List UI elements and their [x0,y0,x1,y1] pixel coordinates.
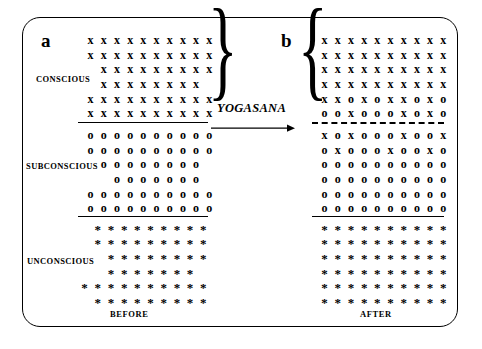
glyph-star: * [424,267,437,280]
glyph-o: o [124,173,137,185]
glyph-x: x [331,49,344,61]
glyph-o: o [190,202,203,214]
glyph-star: * [371,267,384,280]
glyph-x: x [318,78,331,90]
glyph-empty: · [203,158,216,170]
glyph-star: * [131,267,144,280]
glyph-x: x [424,144,437,156]
glyph-row: oooooooooo [318,201,450,216]
glyph-x: x [176,34,189,46]
glyph-x: x [137,78,150,90]
glyph-o: o [318,173,331,185]
glyph-o: o [150,158,163,170]
glyph-star: * [131,252,144,265]
panel-a-letter: a [41,31,51,50]
glyph-x: x [318,34,331,46]
glyph-empty: · [91,267,104,279]
glyph-x: x [384,34,397,46]
glyph-star: * [197,252,210,265]
glyph-o: o [397,173,410,185]
glyph-x: x [384,144,397,156]
glyph-star: * [144,281,157,294]
glyph-star: * [197,223,210,236]
glyph-star: * [397,281,410,294]
glyph-star: * [358,296,371,309]
glyph-x: x [163,63,176,75]
glyph-star: * [410,223,423,236]
glyph-star: * [157,252,170,265]
glyph-x: x [110,49,123,61]
glyph-x: x [344,107,357,119]
glyph-star: * [344,252,357,265]
glyph-x: x [97,63,110,75]
glyph-o: o [384,202,397,214]
glyph-row: ********** [318,222,450,237]
glyph-star: * [384,237,397,250]
glyph-star: * [118,252,131,265]
glyph-o: o [190,188,203,200]
glyph-star: * [384,252,397,265]
glyph-x: x [344,34,357,46]
glyph-star: * [397,252,410,265]
glyph-row: xxxxxxxxxx [318,77,450,92]
panel-a-right-brace: } [208,0,238,104]
glyph-o: o [410,158,423,170]
panel-a-conscious-grid: xxxxxxxxxxxxxxxxxxxx·xxxxxxxxx·xxxxxxxx·… [84,33,216,121]
glyph-star: * [104,281,117,294]
glyph-o: o [384,129,397,141]
glyph-o: o [150,173,163,185]
panel-b-divider-subconscious-unconscious [312,216,444,217]
glyph-o: o [344,173,357,185]
glyph-x: x [110,107,123,119]
glyph-star: * [104,237,117,250]
glyph-row: oxoooxooxo [318,143,450,158]
glyph-star: * [318,267,331,280]
glyph-x: x [110,34,123,46]
glyph-x: x [124,63,137,75]
glyph-star: * [371,223,384,236]
glyph-star: * [104,252,117,265]
caption-before: BEFORE [110,309,149,319]
glyph-x: x [410,49,423,61]
glyph-x: x [437,78,450,90]
glyph-x: x [190,78,203,90]
glyph-o: o [97,188,110,200]
glyph-star: * [318,237,331,250]
glyph-empty: · [84,158,97,170]
glyph-x: x [437,49,450,61]
glyph-o: o [163,188,176,200]
glyph-star: * [384,267,397,280]
glyph-row: oooooooooo [318,186,450,201]
glyph-star: * [358,281,371,294]
glyph-star: * [424,252,437,265]
glyph-o: o [176,129,189,141]
glyph-x: x [150,93,163,105]
glyph-o: o [84,188,97,200]
glyph-o: o [163,173,176,185]
glyph-x: x [358,93,371,105]
glyph-x: x [190,49,203,61]
panel-b-divider-conscious-subconscious [312,122,444,124]
glyph-star: * [331,296,344,309]
glyph-o: o [110,188,123,200]
glyph-star: * [197,296,210,309]
glyph-star: * [144,223,157,236]
glyph-star: * [371,237,384,250]
glyph-star: * [358,223,371,236]
glyph-row: xxxxxxxxxx [84,106,216,121]
glyph-star: * [437,281,450,294]
glyph-o: o [331,202,344,214]
glyph-x: x [384,93,397,105]
glyph-x: x [163,107,176,119]
glyph-o: o [371,202,384,214]
glyph-star: * [331,267,344,280]
panel-b-subconscious-grid: xoxoooxooxoxoooxooxooooooooooooooooooooo… [318,128,450,216]
glyph-o: o [358,202,371,214]
glyph-x: x [358,78,371,90]
glyph-star: * [184,281,197,294]
glyph-x: x [371,63,384,75]
glyph-row: ·xxxxxxxx· [84,77,216,92]
glyph-o: o [358,188,371,200]
glyph-x: x [397,63,410,75]
glyph-row: ********** [318,295,450,310]
